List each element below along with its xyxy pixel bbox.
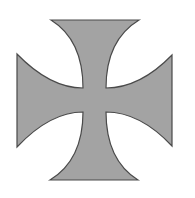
cross-pattee-icon [0, 0, 195, 198]
cross-image: Cross pattée [0, 0, 195, 198]
cross-shape [17, 20, 172, 180]
